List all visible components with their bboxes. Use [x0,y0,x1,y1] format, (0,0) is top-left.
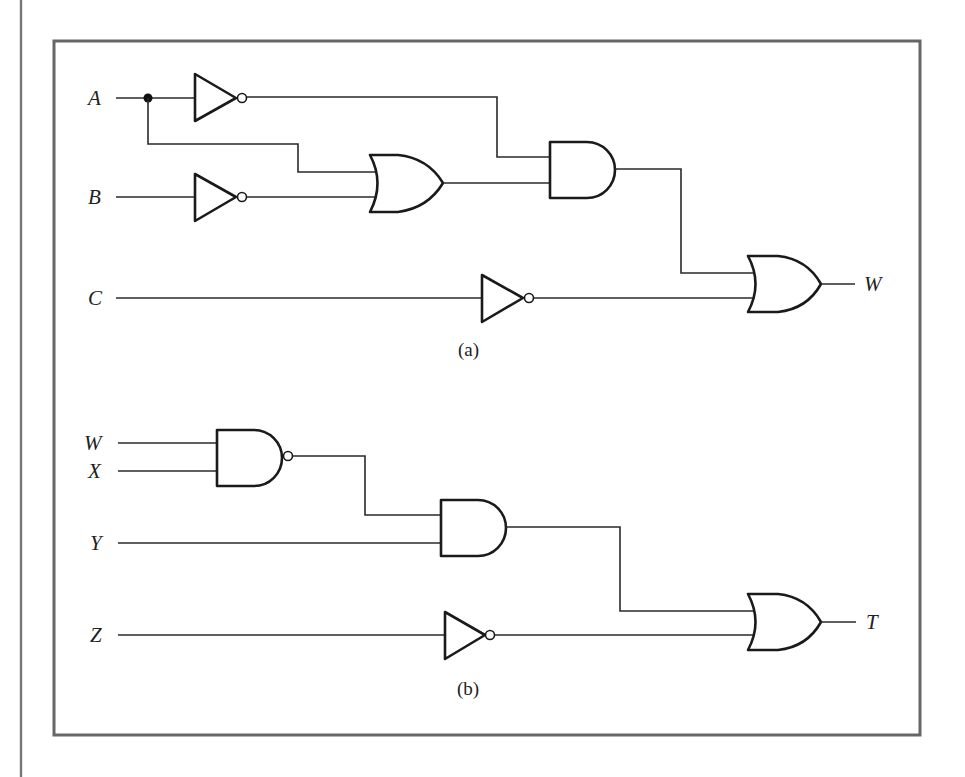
and-gate-2 [441,500,506,556]
wire-a-branch [148,98,376,172]
input-label-w: W [84,431,104,455]
input-label-x: X [87,459,102,483]
not-gate-z [445,612,495,659]
inversion-bubble [525,294,534,303]
inversion-bubble [238,94,247,103]
inversion-bubble [284,452,293,461]
inversion-bubble [486,631,495,640]
output-label-t: T [866,610,879,634]
input-label-y: Y [90,531,104,555]
and-gate-1 [550,142,615,198]
not-gate-a [195,74,247,121]
circuit-b: W X Y Z T (b) [84,430,879,700]
input-label-c: C [88,286,103,310]
circuit-a: A B C [86,74,884,361]
not-gate-c [482,275,534,322]
wire-not-a-out [247,97,550,157]
wire-nand-out [293,456,441,515]
wire-and1-out [615,169,754,273]
wire-and2-out [506,527,754,611]
caption-b: (b) [457,678,479,700]
or-gate-2 [748,256,821,312]
inversion-bubble [238,193,247,202]
output-label-w: W [864,272,884,296]
caption-a: (a) [458,339,479,361]
input-label-b: B [88,185,101,209]
input-label-a: A [86,86,101,110]
or-gate-3 [748,594,821,650]
nand-gate-1 [217,430,293,486]
logic-circuit-figure: A B C [0,0,965,777]
not-gate-b [195,174,247,221]
input-label-z: Z [90,623,102,647]
or-gate-1 [370,155,443,212]
